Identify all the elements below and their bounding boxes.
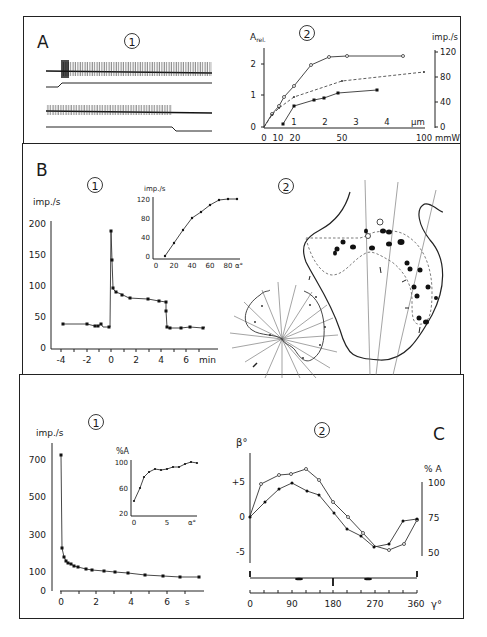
svg-text:180: 180	[324, 599, 341, 609]
svg-text:90: 90	[286, 599, 298, 609]
c1-inset-ylabel: %A	[116, 447, 130, 456]
svg-text:-2: -2	[83, 355, 92, 365]
a2-ylabel-left: Arel.	[250, 32, 266, 43]
svg-text:50: 50	[428, 548, 440, 558]
svg-text:2: 2	[283, 181, 290, 194]
svg-text:6: 6	[164, 597, 170, 607]
svg-text:mmW: mmW	[435, 133, 461, 143]
svg-text:2: 2	[93, 597, 99, 607]
svg-text:4: 4	[384, 117, 389, 127]
a2-chart: 0 1 2 120 80 40 0 01020 50100 mmW 1234 µ…	[251, 47, 461, 143]
svg-text:min: min	[199, 355, 216, 365]
svg-text:60: 60	[119, 485, 128, 493]
svg-text:0: 0	[40, 586, 46, 596]
subpanel-b1-marker: 1	[88, 178, 103, 193]
svg-text:270: 270	[366, 599, 383, 609]
b1-inset-chart: 12080400 02040 6080 α°	[137, 196, 244, 270]
panel-label-a: A	[37, 32, 49, 52]
a2-ylabel-right: imp./s	[432, 32, 459, 42]
svg-text:0: 0	[40, 343, 46, 353]
svg-text:2: 2	[304, 28, 311, 41]
svg-text:0: 0	[154, 262, 158, 270]
svg-text:80: 80	[141, 215, 150, 223]
svg-text:0: 0	[440, 122, 445, 132]
b1-inset-ylabel: imp./s	[144, 185, 166, 193]
svg-text:700: 700	[29, 455, 46, 465]
svg-text:20: 20	[290, 133, 301, 143]
svg-text:-5: -5	[236, 547, 245, 557]
svg-text:0: 0	[146, 253, 150, 261]
svg-text:1: 1	[93, 417, 100, 430]
svg-text:0: 0	[132, 519, 136, 527]
svg-text:100: 100	[416, 133, 432, 143]
svg-text:α°: α°	[235, 262, 243, 270]
svg-text:6: 6	[183, 355, 189, 365]
svg-text:0: 0	[239, 512, 245, 522]
svg-text:150: 150	[29, 250, 46, 260]
c2-ylabel-right: % A	[424, 464, 442, 474]
svg-text:0: 0	[58, 597, 64, 607]
subpanel-c1-marker: 1	[89, 415, 104, 430]
svg-text:0: 0	[251, 122, 256, 132]
b1-ylabel: imp./s	[33, 197, 61, 207]
svg-text:300: 300	[29, 530, 46, 540]
b2-outline-diagram	[304, 180, 443, 375]
panel-label-b: B	[36, 160, 48, 180]
svg-text:120: 120	[137, 196, 150, 204]
svg-text:4: 4	[158, 355, 164, 365]
svg-text:10: 10	[273, 133, 284, 143]
svg-text:40: 40	[141, 234, 150, 242]
svg-text:500: 500	[29, 492, 46, 502]
svg-text:α°: α°	[188, 519, 196, 527]
svg-text:+5: +5	[232, 477, 245, 487]
svg-text:2: 2	[322, 117, 327, 127]
svg-text:s: s	[185, 597, 190, 607]
svg-text:80: 80	[440, 72, 451, 82]
svg-text:100: 100	[29, 567, 46, 577]
svg-text:0: 0	[108, 355, 114, 365]
svg-text:40: 40	[440, 97, 451, 107]
svg-text:4: 4	[128, 597, 134, 607]
c1-inset-chart: 1006020 05 α°	[115, 459, 198, 527]
c2-chart: +50-5 1007550	[232, 453, 446, 610]
svg-text:60: 60	[206, 262, 215, 270]
svg-text:1: 1	[251, 90, 256, 100]
panel-label-c: C	[433, 424, 445, 444]
svg-text:100: 100	[428, 478, 445, 488]
svg-text:360: 360	[407, 599, 424, 609]
svg-text:µm: µm	[411, 117, 425, 127]
svg-text:120: 120	[440, 47, 456, 57]
svg-text:1: 1	[129, 36, 136, 49]
subpanel-c2-marker: 2	[315, 423, 330, 438]
svg-text:γ°: γ°	[431, 599, 442, 610]
svg-text:50: 50	[337, 133, 348, 143]
svg-text:-4: -4	[57, 355, 66, 365]
svg-text:100: 100	[115, 459, 128, 467]
svg-text:50: 50	[35, 312, 47, 322]
b1-chart: 200150100 500 -4-20 246 min	[29, 219, 218, 365]
svg-text:2: 2	[133, 355, 139, 365]
spike-trace-bottom	[46, 105, 212, 131]
svg-text:0: 0	[261, 133, 266, 143]
subpanel-a2-marker: 2	[300, 26, 315, 41]
svg-text:40: 40	[188, 262, 197, 270]
svg-text:200: 200	[29, 219, 46, 229]
svg-text:80: 80	[224, 262, 233, 270]
svg-text:2: 2	[251, 59, 256, 69]
b2-polar-plot	[230, 282, 338, 378]
svg-text:100: 100	[29, 281, 46, 291]
c2-ylabel-left: β°	[236, 437, 247, 448]
subpanel-b2-marker: 2	[279, 179, 294, 194]
spike-trace-top	[46, 60, 212, 87]
subpanel-a1-marker: 1	[125, 34, 140, 49]
svg-text:1: 1	[291, 117, 296, 127]
svg-text:75: 75	[428, 513, 439, 523]
c1-chart: 700500300 1000 0246 s	[29, 443, 204, 607]
svg-text:20: 20	[170, 262, 179, 270]
svg-text:5: 5	[165, 519, 169, 527]
svg-text:2: 2	[319, 425, 326, 438]
svg-text:0: 0	[247, 599, 253, 609]
svg-text:20: 20	[119, 510, 128, 518]
c1-ylabel: imp./s	[36, 428, 64, 438]
svg-text:1: 1	[92, 180, 99, 193]
